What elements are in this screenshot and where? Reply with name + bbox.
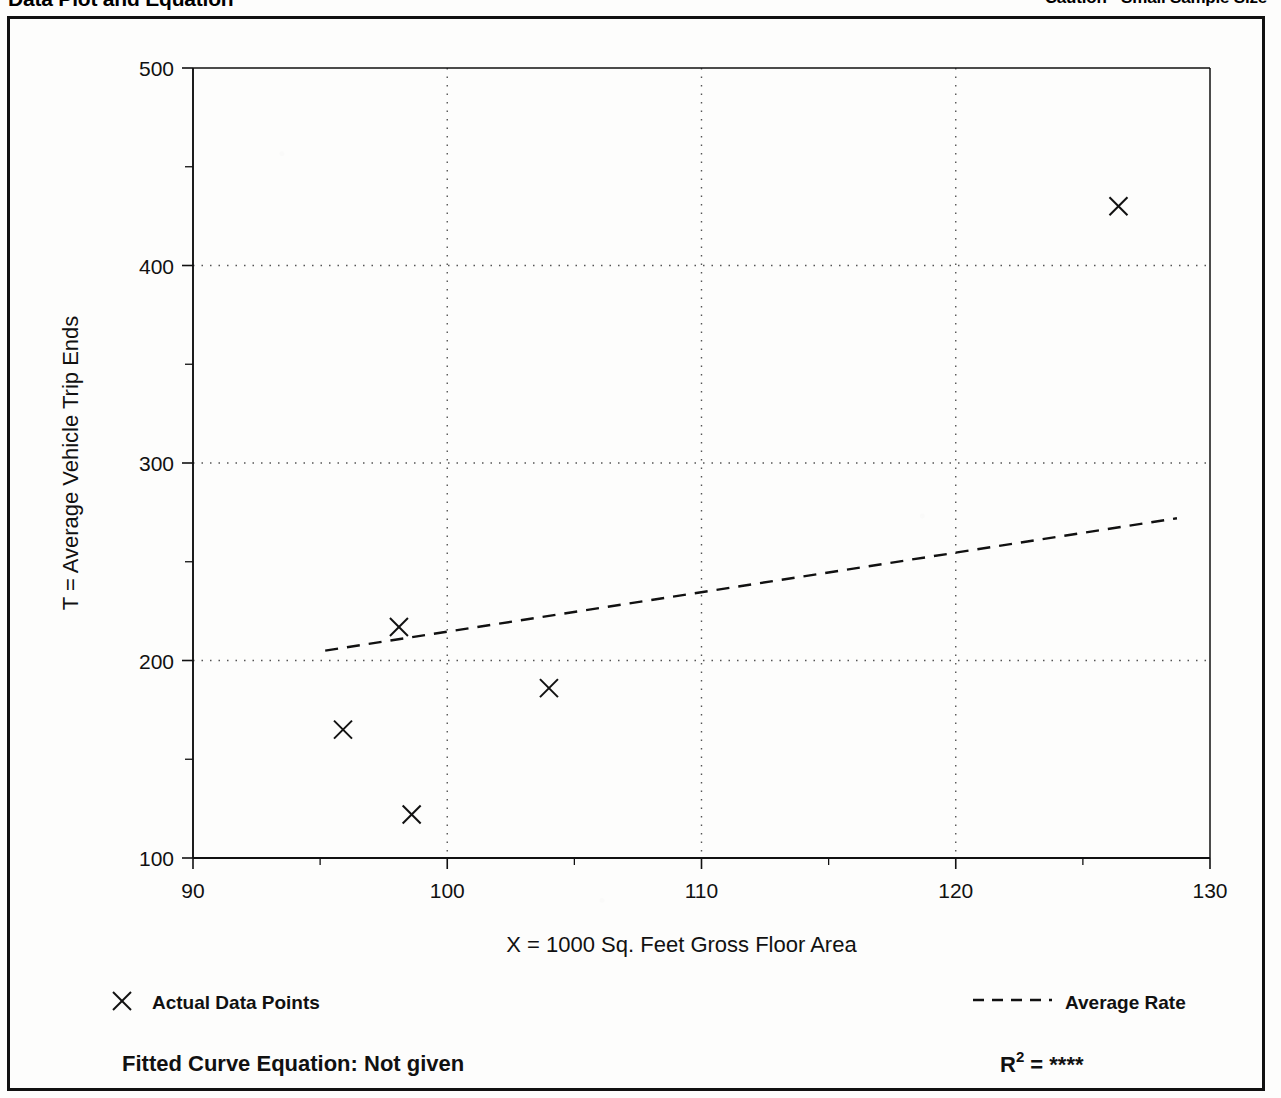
y-axis-title: T = Average Vehicle Trip Ends (58, 316, 83, 611)
data-point-marker (334, 721, 352, 739)
axis-titles-layer: X = 1000 Sq. Feet Gross Floor AreaT = Av… (58, 316, 857, 957)
data-point-marker (540, 679, 558, 697)
legend-layer: Actual Data PointsAverage Rate (113, 992, 1186, 1013)
r-squared-equals: = (1024, 1052, 1049, 1077)
average-rate-line (325, 518, 1177, 650)
tick-labels-layer: 90100110120130100200300400500 (139, 57, 1228, 902)
x-axis-tick-label: 120 (938, 879, 973, 902)
x-axis-title: X = 1000 Sq. Feet Gross Floor Area (506, 932, 857, 957)
x-axis-tick-label: 130 (1192, 879, 1227, 902)
data-series-layer (325, 197, 1177, 823)
data-point-marker (390, 618, 408, 636)
y-axis-tick-label: 200 (139, 650, 174, 673)
y-axis-tick-label: 400 (139, 255, 174, 278)
data-point-marker (403, 806, 421, 824)
data-point-marker (1109, 197, 1127, 215)
chart-container: 90100110120130100200300400500 X = 1000 S… (0, 0, 1281, 1098)
y-axis-tick-label: 100 (139, 847, 174, 870)
legend-label-actual-data-points: Actual Data Points (152, 992, 320, 1013)
y-axis-tick-label: 500 (139, 57, 174, 80)
data-plot-svg: 90100110120130100200300400500 X = 1000 S… (0, 0, 1281, 1098)
x-axis-tick-label: 90 (181, 879, 204, 902)
r-squared-stars: **** (1049, 1052, 1084, 1077)
data-point-marker (113, 992, 131, 1010)
r-squared-letter: R (1000, 1052, 1016, 1077)
y-axis-tick-label: 300 (139, 452, 174, 475)
fitted-curve-equation: Fitted Curve Equation: Not given (122, 1051, 464, 1076)
grid-layer (193, 68, 1210, 858)
tick-marks-layer (182, 68, 1210, 869)
x-axis-tick-label: 100 (430, 879, 465, 902)
x-axis-tick-label: 110 (685, 879, 718, 902)
r-squared-exponent: 2 (1016, 1048, 1024, 1065)
legend-label-average-rate: Average Rate (1065, 992, 1186, 1013)
r-squared-value: R2 = **** (1000, 1048, 1084, 1077)
footer-layer: Fitted Curve Equation: Not givenR2 = ***… (122, 1048, 1084, 1077)
